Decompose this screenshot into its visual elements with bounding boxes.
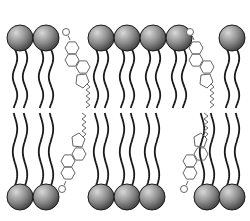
hydrocarbon-tail [210, 84, 214, 108]
steroid-ring [72, 133, 85, 147]
steroid-ring [72, 148, 86, 160]
bond [68, 36, 70, 41]
fatty-acid-tail [13, 113, 17, 186]
fatty-acid-tail [13, 49, 17, 108]
steroid-ring [189, 54, 203, 66]
fatty-acid-tail [94, 49, 98, 108]
fatty-acid-tail [130, 49, 134, 108]
phosphate-head [88, 25, 114, 51]
fatty-acid-tail [120, 113, 124, 186]
fatty-acid-tail [225, 49, 229, 108]
steroid-ring [183, 155, 197, 167]
fatty-acid-tail [210, 113, 214, 186]
phosphate-head [194, 184, 220, 210]
phosphate-head [7, 25, 33, 51]
steroid-ring [189, 42, 203, 54]
fatty-acid-tail [23, 49, 27, 108]
steroid-ring [65, 54, 79, 66]
phosphate-head [219, 25, 245, 51]
lipid-bilayer-diagram [0, 0, 250, 221]
fatty-acid-tail [200, 113, 204, 186]
hydrocarbon-tail [82, 113, 86, 137]
fatty-acid-tail [94, 113, 98, 186]
steroid-ring [183, 167, 197, 179]
phosphate-head [88, 184, 114, 210]
steroid-ring [65, 42, 79, 54]
phosphate-head [33, 184, 59, 210]
fatty-acid-tail [172, 49, 176, 108]
hydroxyl-group [181, 186, 188, 193]
molecules [7, 25, 245, 210]
fatty-acid-tail [235, 113, 239, 186]
steroid-ring [61, 167, 75, 179]
hydroxyl-group [63, 29, 70, 36]
steroid-ring [76, 74, 89, 88]
phosphate-head [7, 184, 33, 210]
fatty-acid-tail [39, 113, 43, 186]
fatty-acid-tail [235, 49, 239, 108]
fatty-acid-tail [104, 49, 108, 108]
fatty-acid-tail [156, 49, 160, 108]
bond [186, 181, 188, 186]
fatty-acid-tail [49, 113, 53, 186]
hydroxyl-group [59, 186, 66, 193]
steroid-ring [61, 155, 75, 167]
fatty-acid-tail [49, 49, 53, 108]
hydrocarbon-tail [86, 84, 90, 108]
fatty-acid-tail [155, 113, 159, 186]
hydroxyl-group [187, 29, 194, 36]
bilayer-svg [0, 0, 250, 221]
steroid-ring [200, 74, 213, 88]
phosphate-head [114, 25, 140, 51]
fatty-acid-tail [130, 113, 134, 186]
fatty-acid-tail [120, 49, 124, 108]
phosphate-head [219, 184, 245, 210]
bond [64, 181, 66, 186]
fatty-acid-tail [146, 49, 150, 108]
fatty-acid-tail [39, 49, 43, 108]
steroid-ring [76, 61, 90, 73]
fatty-acid-tail [145, 113, 149, 186]
fatty-acid-tail [225, 113, 229, 186]
phosphate-head [114, 184, 140, 210]
phosphate-head [33, 25, 59, 51]
fatty-acid-tail [104, 113, 108, 186]
fatty-acid-tail [182, 49, 186, 108]
phosphate-head [139, 184, 165, 210]
phosphate-head [140, 25, 166, 51]
fatty-acid-tail [23, 113, 27, 186]
steroid-ring [200, 61, 214, 73]
